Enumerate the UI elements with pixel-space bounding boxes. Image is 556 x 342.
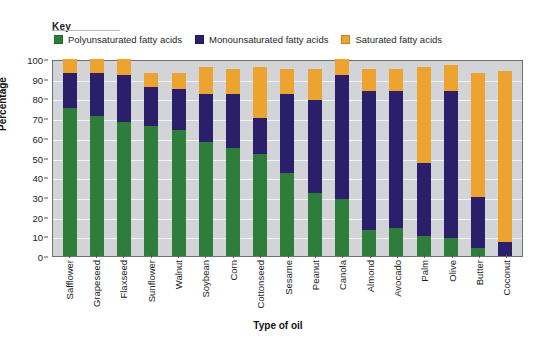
bar-segment[interactable] xyxy=(199,94,213,141)
bar-segment[interactable] xyxy=(308,100,322,193)
bar-segment[interactable] xyxy=(199,142,213,256)
bar-segment[interactable] xyxy=(280,69,294,95)
bar-slot xyxy=(492,61,519,256)
bar-slot xyxy=(165,61,192,256)
bar-segment[interactable] xyxy=(226,94,240,147)
legend-item[interactable]: Monounsaturated fatty acids xyxy=(195,34,328,45)
stacked-bar[interactable] xyxy=(362,69,376,256)
stacked-bar[interactable] xyxy=(226,69,240,256)
x-tick-mark xyxy=(233,254,234,258)
stacked-bar[interactable] xyxy=(471,73,485,256)
stacked-bar[interactable] xyxy=(389,69,403,256)
bar-segment[interactable] xyxy=(335,59,349,75)
key-title: Key xyxy=(52,21,71,33)
bar-segment[interactable] xyxy=(253,118,267,153)
x-tick-mark xyxy=(178,254,179,258)
y-tick-label: 50 xyxy=(3,153,43,164)
bar-segment[interactable] xyxy=(362,91,376,231)
bar-segment[interactable] xyxy=(63,59,77,73)
x-tick-slot: Peanut xyxy=(301,258,328,314)
y-tick-label: 20 xyxy=(3,212,43,223)
bar-segment[interactable] xyxy=(308,193,322,256)
x-tick-label: Sunflower xyxy=(145,260,156,302)
bar-segment[interactable] xyxy=(471,73,485,197)
bar-segment[interactable] xyxy=(280,173,294,256)
y-tick-mark xyxy=(44,60,48,61)
bar-segment[interactable] xyxy=(117,75,131,122)
bar-slot xyxy=(383,61,410,256)
bar-segment[interactable] xyxy=(172,89,186,130)
bar-segment[interactable] xyxy=(498,71,512,242)
bar-segment[interactable] xyxy=(63,73,77,108)
bar-segment[interactable] xyxy=(253,67,267,118)
stacked-bar[interactable] xyxy=(335,59,349,256)
y-tick-mark xyxy=(44,79,48,80)
bar-segment[interactable] xyxy=(471,197,485,248)
bar-segment[interactable] xyxy=(144,126,158,256)
stacked-bar[interactable] xyxy=(253,67,267,256)
bar-segment[interactable] xyxy=(144,73,158,87)
bar-segment[interactable] xyxy=(63,108,77,256)
bar-segment[interactable] xyxy=(362,69,376,91)
bar-segment[interactable] xyxy=(389,69,403,91)
x-tick-slot: Sesame xyxy=(274,258,301,314)
x-tick-slot: Butter xyxy=(465,258,492,314)
bar-segment[interactable] xyxy=(117,59,131,75)
stacked-bar[interactable] xyxy=(172,73,186,256)
bar-segment[interactable] xyxy=(90,73,104,116)
bar-segment[interactable] xyxy=(172,73,186,89)
x-tick-slot: Walnut xyxy=(164,258,191,314)
bar-segment[interactable] xyxy=(417,67,431,164)
bar-slot xyxy=(465,61,492,256)
stacked-bar[interactable] xyxy=(117,59,131,256)
bar-segment[interactable] xyxy=(90,116,104,256)
stacked-bar[interactable] xyxy=(199,67,213,256)
bar-segment[interactable] xyxy=(90,59,104,73)
x-tick-mark xyxy=(452,254,453,258)
stacked-bar[interactable] xyxy=(90,59,104,256)
x-tick-label: Canola xyxy=(337,260,348,290)
bar-segment[interactable] xyxy=(280,94,294,173)
x-tick-slot: Coconut xyxy=(493,258,520,314)
legend-item[interactable]: Saturated fatty acids xyxy=(341,34,442,45)
bar-segment[interactable] xyxy=(417,163,431,236)
bar-slot xyxy=(56,61,83,256)
y-tick-mark xyxy=(44,158,48,159)
bar-slot xyxy=(192,61,219,256)
bar-segment[interactable] xyxy=(226,69,240,95)
bar-segment[interactable] xyxy=(172,130,186,256)
bar-segment[interactable] xyxy=(444,65,458,91)
bar-segment[interactable] xyxy=(117,122,131,256)
x-tick-slot: Soybean xyxy=(192,258,219,314)
x-tick-slot: Canola xyxy=(329,258,356,314)
bar-segment[interactable] xyxy=(362,230,376,256)
x-tick-label: Soybean xyxy=(200,260,211,298)
bar-segment[interactable] xyxy=(253,154,267,256)
bar-segment[interactable] xyxy=(308,69,322,101)
legend-swatch xyxy=(54,35,63,44)
bar-segment[interactable] xyxy=(199,67,213,95)
stacked-bar[interactable] xyxy=(498,71,512,256)
bar-segment[interactable] xyxy=(444,91,458,239)
bar-segment[interactable] xyxy=(335,75,349,199)
bar-segment[interactable] xyxy=(389,228,403,256)
bar-segment[interactable] xyxy=(226,148,240,256)
legend-swatch xyxy=(195,35,204,44)
bar-segment[interactable] xyxy=(335,199,349,256)
legend-item[interactable]: Polyunsaturated fatty acids xyxy=(54,34,182,45)
x-tick-label: Walnut xyxy=(173,260,184,289)
bar-segment[interactable] xyxy=(389,91,403,229)
stacked-bar[interactable] xyxy=(280,69,294,256)
stacked-bar[interactable] xyxy=(417,67,431,256)
x-tick-label: Coconut xyxy=(501,260,512,295)
y-tick-mark xyxy=(44,178,48,179)
y-tick-mark xyxy=(44,257,48,258)
bar-segment[interactable] xyxy=(498,242,512,256)
stacked-bar[interactable] xyxy=(144,73,158,256)
bar-slot xyxy=(437,61,464,256)
stacked-bar[interactable] xyxy=(444,65,458,256)
stacked-bar[interactable] xyxy=(63,59,77,256)
plot-area xyxy=(52,60,523,257)
bar-segment[interactable] xyxy=(144,87,158,126)
stacked-bar[interactable] xyxy=(308,69,322,256)
